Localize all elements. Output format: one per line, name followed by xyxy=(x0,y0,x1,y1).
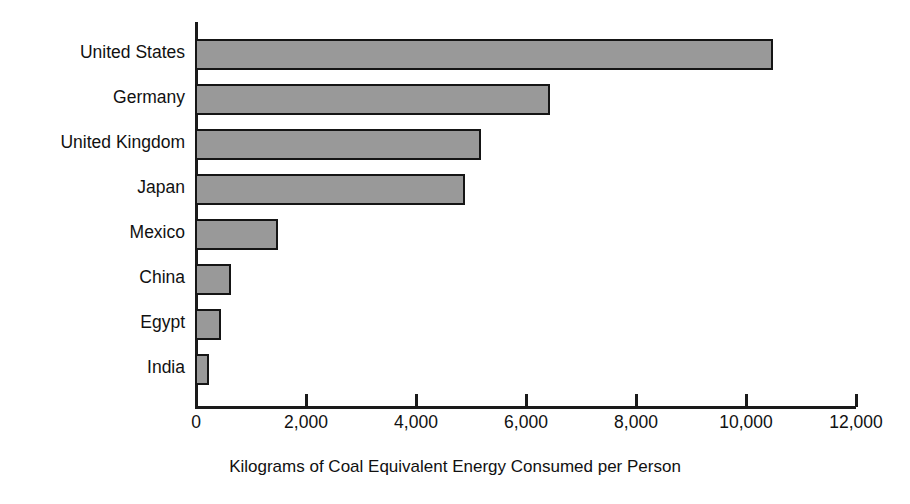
x-tick-label: 0 xyxy=(191,414,201,432)
bar-china xyxy=(195,264,231,295)
bar-germany xyxy=(195,84,550,115)
x-tick-mark xyxy=(525,394,528,407)
bar-chart: United States Germany United Kingdom Jap… xyxy=(0,0,910,504)
x-tick-label: 8,000 xyxy=(614,414,658,432)
category-label-mexico: Mexico xyxy=(130,224,185,242)
x-tick-mark xyxy=(855,394,858,407)
x-tick-label: 12,000 xyxy=(829,414,883,432)
x-tick-mark xyxy=(195,394,198,407)
bar-mexico xyxy=(195,219,278,250)
category-label-china: China xyxy=(139,269,185,287)
category-label-egypt: Egypt xyxy=(140,314,185,332)
category-label-united-kingdom: United Kingdom xyxy=(60,134,185,152)
x-tick-label: 10,000 xyxy=(719,414,773,432)
x-tick-mark xyxy=(745,394,748,407)
bar-japan xyxy=(195,174,465,205)
bar-egypt xyxy=(195,309,221,340)
category-label-germany: Germany xyxy=(113,89,185,107)
category-label-india: India xyxy=(147,359,185,377)
x-tick-mark xyxy=(305,394,308,407)
bar-united-states xyxy=(195,39,773,70)
x-tick-mark xyxy=(415,394,418,407)
x-tick-mark xyxy=(635,394,638,407)
x-tick-label: 2,000 xyxy=(284,414,328,432)
x-tick-label: 6,000 xyxy=(504,414,548,432)
category-label-japan: Japan xyxy=(137,179,185,197)
category-label-united-states: United States xyxy=(80,44,185,62)
y-axis-line xyxy=(195,22,198,409)
plot-area: United States Germany United Kingdom Jap… xyxy=(0,0,910,504)
bar-united-kingdom xyxy=(195,129,481,160)
x-axis-title: Kilograms of Coal Equivalent Energy Cons… xyxy=(0,458,910,475)
x-tick-label: 4,000 xyxy=(394,414,438,432)
bar-india xyxy=(195,354,209,385)
